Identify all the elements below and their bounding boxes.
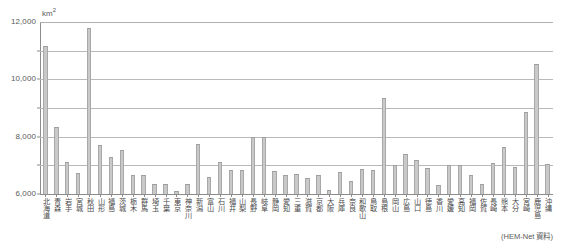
- x-axis-category-label: 栃木: [128, 198, 137, 212]
- source-note: (HEM-Net 資料): [501, 232, 553, 241]
- bar: [76, 173, 80, 194]
- x-axis-tick-mark: [166, 194, 167, 197]
- x-axis-tick-mark: [67, 194, 68, 197]
- x-axis-category-label: 秋田: [85, 198, 94, 212]
- bar: [65, 162, 69, 194]
- bars-layer: [40, 22, 553, 194]
- bar: [305, 178, 309, 194]
- x-axis-category-label: 福島: [106, 198, 115, 212]
- x-axis-tick-mark: [220, 194, 221, 197]
- bar: [218, 162, 222, 194]
- bar: [513, 167, 517, 194]
- x-axis-tick-mark: [515, 194, 516, 197]
- x-axis-category-label: 石川: [216, 198, 225, 212]
- x-axis-category-label: 和歌山: [357, 198, 366, 219]
- x-axis-category-label: 滋賀: [303, 198, 312, 212]
- x-axis-category-label: 高知: [456, 198, 465, 212]
- x-axis-tick-mark: [504, 194, 505, 197]
- x-axis-category-label: 長崎: [488, 198, 497, 212]
- x-axis-tick-mark: [318, 194, 319, 197]
- bar: [196, 144, 200, 194]
- x-axis-category-label: 三重: [292, 198, 301, 212]
- bar: [393, 165, 397, 194]
- y-axis-tick-label: 6,000: [15, 190, 36, 198]
- bar: [447, 165, 451, 194]
- x-axis-tick-mark: [548, 194, 549, 197]
- x-axis-tick-mark: [45, 194, 46, 197]
- x-axis-category-label: 大阪: [325, 198, 334, 212]
- x-axis-tick-mark: [427, 194, 428, 197]
- x-axis-tick-mark: [493, 194, 494, 197]
- bar: [163, 184, 167, 194]
- x-axis-category-label: 神奈川: [183, 198, 192, 219]
- x-axis-tick-mark: [526, 194, 527, 197]
- x-axis-category-label: 佐賀: [478, 198, 487, 212]
- bar: [436, 185, 440, 194]
- bar: [534, 64, 538, 194]
- x-axis-category-label: 愛知: [281, 198, 290, 212]
- bar: [480, 184, 484, 194]
- x-axis-category-label: 奈良: [347, 198, 356, 212]
- x-axis-tick-mark: [231, 194, 232, 197]
- bar: [294, 174, 298, 194]
- x-axis-tick-mark: [460, 194, 461, 197]
- plot-area: 02,0004,0006,0008,00010,00012,000: [40, 22, 553, 194]
- bar: [43, 46, 47, 194]
- x-axis-category-label: 茨城: [117, 198, 126, 212]
- x-axis-category-label: 富山: [205, 198, 214, 212]
- bar: [545, 164, 549, 194]
- bar: [240, 170, 244, 194]
- x-axis-tick-mark: [133, 194, 134, 197]
- x-axis-tick-mark: [362, 194, 363, 197]
- y-axis-tick-label: 10,000: [11, 75, 36, 83]
- x-axis-tick-mark: [89, 194, 90, 197]
- x-axis-tick-mark: [438, 194, 439, 197]
- x-axis-category-label: 福岡: [467, 198, 476, 212]
- x-axis-category-label: 宮崎: [521, 198, 530, 212]
- bar: [491, 163, 495, 194]
- x-axis-tick-mark: [56, 194, 57, 197]
- bar-chart: km2 02,0004,0006,0008,00010,00012,000 北海…: [0, 0, 567, 248]
- x-axis-category-label: 兵庫: [336, 198, 345, 212]
- x-axis-tick-mark: [253, 194, 254, 197]
- bar: [382, 98, 386, 194]
- x-axis-tick-mark: [384, 194, 385, 197]
- x-axis-category-label: 岡山: [390, 198, 399, 212]
- x-axis-tick-mark: [395, 194, 396, 197]
- x-axis-tick-mark: [297, 194, 298, 197]
- x-axis-category-label: 大分: [510, 198, 519, 212]
- x-axis-category-label: 山梨: [237, 198, 246, 212]
- x-axis-category-label: 愛媛: [445, 198, 454, 212]
- x-axis-category-label: 鳥取: [368, 198, 377, 212]
- x-axis-tick-mark: [471, 194, 472, 197]
- x-axis-category-label: 群馬: [139, 198, 148, 212]
- x-axis-tick-mark: [482, 194, 483, 197]
- x-axis-tick-mark: [78, 194, 79, 197]
- x-axis-tick-mark: [449, 194, 450, 197]
- bar: [262, 137, 266, 194]
- x-axis-tick-mark: [307, 194, 308, 197]
- bar: [414, 160, 418, 194]
- bar: [524, 112, 528, 194]
- y-axis-tick-label: 8,000: [15, 133, 36, 141]
- x-axis-category-label: 鹿児島: [532, 198, 541, 219]
- x-axis-tick-mark: [406, 194, 407, 197]
- bar: [403, 154, 407, 194]
- x-axis-category-label: 千葉: [161, 198, 170, 212]
- x-axis-category-label: 静岡: [270, 198, 279, 212]
- bar: [371, 170, 375, 194]
- x-axis-category-label: 岩手: [63, 198, 72, 212]
- bar: [152, 184, 156, 194]
- x-axis-category-label: 山形: [96, 198, 105, 212]
- bar: [207, 177, 211, 194]
- x-axis-tick-mark: [329, 194, 330, 197]
- x-axis-tick-mark: [111, 194, 112, 197]
- bar: [251, 137, 255, 194]
- x-axis-tick-mark: [373, 194, 374, 197]
- bar: [229, 170, 233, 194]
- bar: [458, 165, 462, 194]
- x-axis-category-label: 広島: [401, 198, 410, 212]
- x-axis-category-label: 香川: [434, 198, 443, 212]
- x-axis-tick-mark: [144, 194, 145, 197]
- x-axis-tick-mark: [417, 194, 418, 197]
